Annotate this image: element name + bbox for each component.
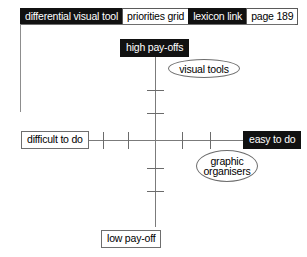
x-axis-tick [210, 132, 211, 149]
axis-label-easy-to-do: easy to do [243, 131, 301, 149]
axis-label-text: easy to do [249, 134, 295, 145]
tab-label: differential visual tool [25, 11, 118, 22]
frame-top-rule [20, 24, 295, 25]
tab-label: lexicon link [193, 11, 242, 22]
x-axis-tick [128, 132, 129, 149]
data-point-label-line2: organisers [203, 166, 250, 176]
breadcrumb: differential visual tool priorities grid… [20, 8, 298, 25]
priorities-grid-page: differential visual tool priorities grid… [0, 0, 307, 257]
axis-label-high-payoffs: high pay-offs [120, 39, 189, 57]
y-axis-tick [147, 168, 164, 169]
tab-page-189[interactable]: page 189 [246, 8, 298, 25]
tab-priorities-grid[interactable]: priorities grid [122, 8, 188, 25]
y-axis-tick [147, 90, 164, 91]
data-point-graphic-organisers: graphic organisers [196, 150, 258, 182]
tab-lexicon-link[interactable]: lexicon link [188, 8, 246, 25]
axis-label-difficult-to-do: difficult to do [21, 131, 89, 149]
x-axis-tick [182, 132, 183, 149]
axis-label-text: low pay-off [107, 233, 155, 244]
data-point-label: visual tools [179, 64, 229, 74]
x-axis-tick [103, 132, 104, 149]
tab-differential-visual-tool[interactable]: differential visual tool [20, 8, 122, 25]
y-axis-tick [147, 113, 164, 114]
frame-left-rule [20, 24, 21, 112]
tab-label: priorities grid [127, 11, 184, 22]
axis-label-low-payoff: low pay-off [101, 230, 161, 248]
data-point-visual-tools: visual tools [168, 59, 240, 78]
axis-label-text: difficult to do [27, 134, 83, 145]
axis-label-text: high pay-offs [126, 42, 183, 53]
y-axis-tick [147, 191, 164, 192]
tab-label: page 189 [251, 11, 293, 22]
